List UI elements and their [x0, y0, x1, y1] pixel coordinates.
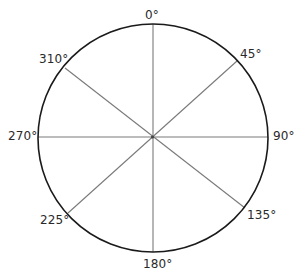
label-180-degrees: 180°	[143, 258, 172, 271]
label-310-degrees: 310°	[39, 53, 68, 66]
label-135-degrees: 135°	[247, 209, 276, 222]
label-225-degrees: 225°	[40, 214, 69, 227]
center-point	[151, 135, 154, 138]
compass-diagram	[0, 0, 301, 279]
label-45-degrees: 45°	[240, 48, 262, 61]
label-90-degrees: 90°	[273, 130, 295, 143]
spoke-310-135	[65, 68, 245, 208]
label-0-degrees: 0°	[145, 9, 159, 22]
label-270-degrees: 270°	[8, 130, 37, 143]
